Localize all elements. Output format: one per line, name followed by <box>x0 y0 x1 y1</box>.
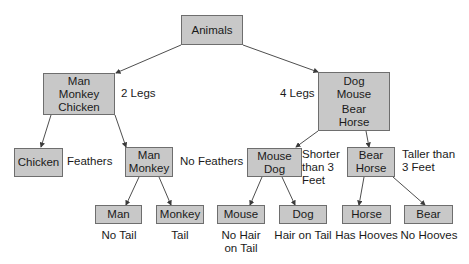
node-mouse-dog: Mouse Dog <box>247 148 302 177</box>
node-text: Horse <box>339 116 370 129</box>
node-text: Man <box>138 149 160 162</box>
edge-2legs-manmonkey <box>115 115 126 147</box>
node-text: Bear <box>342 103 366 116</box>
node-animals: Animals <box>181 15 243 45</box>
criterion-no-hooves: No Hooves <box>398 229 460 242</box>
leaf-bear: Bear <box>404 205 453 224</box>
leaf-mouse: Mouse <box>217 205 265 224</box>
node-text: Animals <box>192 24 233 37</box>
edge-4legs-mousedog <box>296 131 318 147</box>
node-text: Man <box>68 75 90 88</box>
node-text: Monkey <box>129 162 169 175</box>
node-text: Horse <box>356 162 387 175</box>
node-man-monkey: Man Monkey <box>125 147 173 177</box>
criterion-4-legs: 4 Legs <box>280 87 315 100</box>
node-text: Dog <box>264 163 285 176</box>
node-text: Bear <box>359 149 383 162</box>
leaf-dog: Dog <box>279 205 327 224</box>
node-text: Chicken <box>18 156 60 169</box>
leaf-horse: Horse <box>342 205 391 224</box>
criterion-no-feathers: No Feathers <box>180 155 243 168</box>
criterion-2-legs: 2 Legs <box>121 87 156 100</box>
node-bear-horse: Bear Horse <box>347 147 395 177</box>
leaf-man: Man <box>95 205 142 224</box>
node-man-monkey-chicken: Man Monkey Chicken <box>43 73 115 115</box>
criterion-has-hooves: Has Hooves <box>334 229 399 242</box>
criterion-taller-than-3-feet: Taller than 3 Feet <box>402 148 455 174</box>
edge-md-mouse <box>250 177 262 205</box>
criterion-no-tail: No Tail <box>88 229 150 242</box>
criterion-hair-on-tail: Hair on Tail <box>271 229 335 242</box>
node-text: Monkey <box>59 88 99 101</box>
edge-animals-2legs <box>116 45 181 73</box>
edge-animals-4legs <box>243 45 318 72</box>
criterion-no-hair-on-tail: No Hair on Tail <box>211 229 271 255</box>
criterion-shorter-than-3-feet: Shorter than 3 Feet <box>302 148 340 187</box>
node-chicken: Chicken <box>14 148 63 177</box>
node-dog-mouse-bear-horse: Dog Mouse Bear Horse <box>318 72 390 131</box>
edge-mm-man <box>126 177 139 205</box>
node-text: Chicken <box>58 101 100 114</box>
edge-2legs-chicken <box>41 115 51 147</box>
edge-md-dog <box>282 177 295 205</box>
node-text: Dog <box>343 75 364 88</box>
criterion-tail: Tail <box>150 229 210 242</box>
criterion-feathers: Feathers <box>67 155 112 168</box>
node-text: Mouse <box>337 88 372 101</box>
node-text: Mouse <box>257 150 292 163</box>
edge-4legs-bearhorse <box>366 131 369 147</box>
edge-bh-bear <box>393 177 425 205</box>
leaf-monkey: Monkey <box>156 205 204 224</box>
edge-mm-monkey <box>159 177 171 205</box>
edge-bh-horse <box>359 177 364 205</box>
